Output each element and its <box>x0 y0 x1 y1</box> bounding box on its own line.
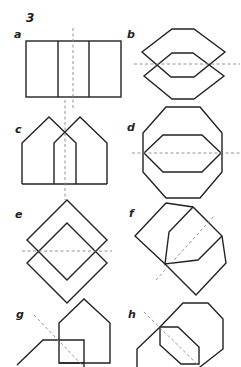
panel-label-f: f <box>129 207 135 220</box>
panel-label-c: c <box>15 123 22 136</box>
panel-c: c <box>15 100 107 200</box>
panel-label-a: a <box>14 28 21 41</box>
panel-g: g <box>16 299 110 367</box>
panel-label-b: b <box>127 28 135 41</box>
panel-c-house-left <box>22 117 76 184</box>
panel-d: d <box>127 107 240 198</box>
panel-e: e <box>15 200 112 303</box>
panel-h-octagon-large <box>137 303 223 367</box>
panel-e-square-lower <box>27 223 107 303</box>
panel-label-d: d <box>127 121 135 134</box>
panel-h-octagon-small <box>160 327 199 364</box>
panel-f: f <box>129 203 226 295</box>
figure-number: 3 <box>26 11 34 25</box>
panel-label-g: g <box>16 308 24 321</box>
panel-label-e: e <box>15 208 23 221</box>
panel-h: h <box>128 303 223 367</box>
panel-e-square-upper <box>27 200 107 280</box>
panel-f-axis <box>156 215 215 280</box>
panel-d-hexagon <box>144 135 221 172</box>
panel-a-rectangle <box>26 41 121 97</box>
panel-f-polygon-inner <box>165 207 222 264</box>
panel-d-octagon <box>143 107 222 198</box>
panel-label-h: h <box>128 308 136 321</box>
panel-b-hexagon-lower <box>144 53 224 99</box>
panel-b: b <box>127 28 240 99</box>
panel-a: a <box>14 28 121 110</box>
figure-canvas: 3 a b c d e f <box>0 0 241 367</box>
panel-c-house-right <box>54 117 107 184</box>
panel-f-polygon-outer <box>135 203 226 295</box>
